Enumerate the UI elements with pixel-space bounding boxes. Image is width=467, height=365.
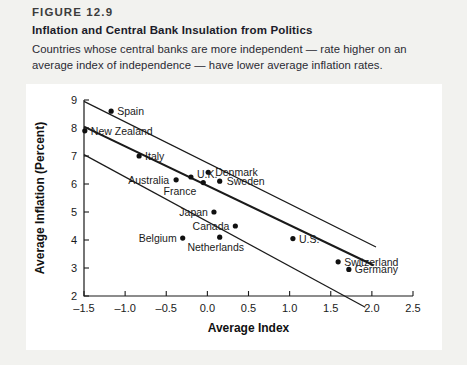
data-point-japan: [211, 209, 216, 214]
data-point-canada: [233, 223, 238, 228]
x-tick-label: 2.5: [405, 302, 420, 314]
point-label-u-s: U.S.: [299, 233, 319, 245]
y-tick-label: 6: [71, 178, 77, 190]
y-tick-label: 5: [71, 206, 77, 218]
data-point-netherlands: [217, 235, 222, 240]
data-point-belgium: [180, 235, 185, 240]
point-label-canada: Canada: [193, 220, 230, 232]
y-tick-label: 9: [71, 94, 77, 106]
point-label-belgium: Belgium: [139, 232, 177, 244]
figure-caption: Countries whose central banks are more i…: [32, 42, 442, 73]
x-tick-label: 1.0: [282, 302, 297, 314]
point-label-germany: Germany: [355, 263, 399, 275]
y-tick-label: 7: [71, 150, 77, 162]
y-axis-title: Average Inflation (Percent): [33, 122, 47, 274]
point-label-spain: Spain: [117, 105, 144, 117]
data-point-u-k: [188, 174, 193, 179]
x-tick-label: –1.0: [114, 302, 135, 314]
point-label-italy: Italy: [145, 150, 165, 162]
data-point-new-zealand: [82, 128, 87, 133]
point-label-new-zealand: New Zealand: [91, 125, 153, 137]
point-label-france: France: [164, 185, 197, 197]
x-tick-label: 2.0: [364, 302, 379, 314]
point-label-sweden: Sweden: [227, 175, 265, 187]
y-tick-label: 2: [71, 290, 77, 302]
scatter-plot: –1.5–1.0–0.50.00.51.01.52.02.523456789 S…: [26, 84, 442, 350]
chart-card: –1.5–1.0–0.50.00.51.01.52.02.523456789 S…: [26, 84, 442, 350]
x-tick-label: 0.0: [200, 302, 215, 314]
data-point-france: [201, 180, 206, 185]
y-tick-label: 3: [71, 262, 77, 274]
data-point-spain: [109, 109, 114, 114]
data-point-italy: [137, 153, 142, 158]
y-tick-label: 4: [71, 234, 77, 246]
point-label-netherlands: Netherlands: [187, 241, 244, 253]
x-tick-label: 0.5: [241, 302, 256, 314]
figure-page: FIGURE 12.9 Inflation and Central Bank I…: [0, 0, 467, 365]
x-tick-label: 1.5: [323, 302, 338, 314]
point-label-japan: Japan: [179, 206, 208, 218]
chart-point-labels: SpainNew ZealandItalyU.K.DenmarkAustrali…: [91, 105, 399, 275]
figure-title: Inflation and Central Bank Insulation fr…: [32, 24, 312, 36]
x-axis-title: Average Index: [208, 321, 290, 335]
data-point-switzerland: [336, 259, 341, 264]
data-point-australia: [174, 177, 179, 182]
data-point-u-s: [290, 236, 295, 241]
figure-number: FIGURE 12.9: [32, 6, 113, 18]
y-tick-label: 8: [71, 122, 77, 134]
x-tick-label: –0.5: [156, 302, 177, 314]
data-point-sweden: [217, 179, 222, 184]
x-tick-label: –1.5: [73, 302, 94, 314]
